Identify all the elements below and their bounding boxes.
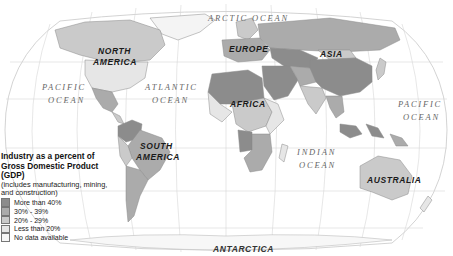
label-south-america: SOUTH	[140, 142, 173, 151]
label-pacific-ocean-east-2: OCEAN	[403, 113, 440, 122]
legend-swatch	[1, 207, 10, 216]
label-atlantic-ocean: ATLANTIC	[145, 83, 198, 92]
label-pacific-ocean-west-2: OCEAN	[48, 96, 85, 105]
legend-item-30-39: 30% - 39%	[1, 207, 113, 216]
legend-swatch	[1, 216, 10, 225]
label-europe: EUROPE	[229, 45, 269, 54]
legend-item-label: 20% - 29%	[14, 217, 48, 224]
label-atlantic-ocean-2: OCEAN	[152, 96, 189, 105]
label-indian-ocean: INDIAN	[297, 148, 336, 157]
legend-item-label: No data available	[14, 234, 68, 241]
label-pacific-ocean-west: PACIFIC	[42, 83, 86, 92]
legend-item-label: Less than 20%	[14, 225, 60, 232]
legend-item-20-29: 20% - 29%	[1, 216, 113, 225]
label-north-america: NORTH	[98, 47, 131, 56]
label-australia: AUSTRALIA	[367, 176, 422, 185]
legend-item-more-than-40: More than 40%	[1, 198, 113, 207]
legend-item-label: More than 40%	[14, 199, 61, 206]
legend: Industry as a percent of Gross Domestic …	[1, 152, 113, 242]
legend-swatch	[1, 225, 10, 234]
legend-swatch	[1, 233, 10, 242]
legend-swatch	[1, 198, 10, 207]
label-indian-ocean-2: OCEAN	[299, 161, 336, 170]
legend-item-label: 30% - 39%	[14, 208, 48, 215]
label-south-america-2: AMERICA	[136, 153, 180, 162]
legend-item-no-data: No data available	[1, 233, 113, 242]
label-arctic-ocean: ARCTIC OCEAN	[208, 14, 289, 23]
legend-title-2: Gross Domestic Product (GDP)	[1, 162, 113, 181]
legend-subtitle-2: and construction)	[1, 189, 113, 198]
label-north-america-2: AMERICA	[93, 58, 137, 67]
label-asia: ASIA	[320, 50, 343, 59]
label-pacific-ocean-east: PACIFIC	[398, 100, 442, 109]
region-angola-congo	[238, 130, 252, 152]
label-africa: AFRICA	[230, 100, 266, 109]
legend-item-less-than-20: Less than 20%	[1, 224, 113, 233]
label-antarctica: ANTARCTICA	[213, 245, 274, 254]
